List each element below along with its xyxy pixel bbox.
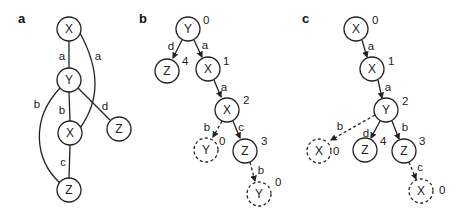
svg-text:Z: Z xyxy=(115,122,122,136)
edge-y0-x1 xyxy=(194,40,202,57)
svg-text:Z: Z xyxy=(65,183,72,197)
node-x-dashed-2: X xyxy=(409,179,433,203)
svg-text:X: X xyxy=(352,22,360,36)
edge-label: b xyxy=(258,164,264,176)
edge-label: b xyxy=(204,121,210,133)
node-y: Y xyxy=(57,68,81,92)
edge-y2-z3 xyxy=(392,121,399,139)
node-index: 1 xyxy=(388,55,394,67)
node-index: 3 xyxy=(419,135,425,147)
edge-y2-z4 xyxy=(371,121,380,138)
svg-text:Z: Z xyxy=(163,64,170,78)
svg-text:Z: Z xyxy=(241,144,248,158)
edge-x2-zb xyxy=(69,145,70,178)
edge-label: a xyxy=(95,50,102,62)
svg-text:Z: Z xyxy=(361,143,368,157)
node-index: 4 xyxy=(182,55,189,67)
node-z-right: Z xyxy=(107,117,131,141)
panel-b-label: b xyxy=(139,11,147,26)
edge-label: b xyxy=(34,98,40,110)
edge-x1-y2 xyxy=(378,80,382,98)
edge-x-x2 xyxy=(80,33,95,128)
node-z3: Z xyxy=(392,139,416,163)
svg-text:X: X xyxy=(315,144,323,158)
edge-label: a xyxy=(59,50,66,62)
panel-a-label: a xyxy=(18,11,26,26)
edge-y-zb xyxy=(39,88,60,183)
node-x1: X xyxy=(196,57,220,81)
edge-label: a xyxy=(385,81,392,93)
edge-x0-x1 xyxy=(362,40,367,57)
node-z4: Z xyxy=(353,138,377,162)
edge-label: b xyxy=(59,104,65,116)
svg-text:X: X xyxy=(65,22,73,36)
edge-label: a xyxy=(202,39,209,51)
node-index: 2 xyxy=(402,95,408,107)
node-index: 3 xyxy=(261,135,267,147)
node-x-dashed-1: X xyxy=(307,139,331,163)
node-index: 2 xyxy=(243,94,249,106)
node-x0: X xyxy=(344,17,368,41)
diagram-canvas: a a a b b d c X Y X Z xyxy=(0,0,462,217)
svg-text:Z: Z xyxy=(400,144,407,158)
edge-label: a xyxy=(368,40,375,52)
edge-y-x2 xyxy=(69,92,70,121)
panel-c: c a a b d b c X 0 X 1 Y 2 xyxy=(302,11,445,204)
node-z-bottom: Z xyxy=(57,178,81,202)
svg-text:Y: Y xyxy=(382,103,390,117)
edge-label: c xyxy=(417,161,423,173)
edge-y0-z4 xyxy=(173,40,182,58)
node-index: 4 xyxy=(380,135,387,147)
node-index: 0 xyxy=(372,14,378,26)
panel-b: b d a a b c b Y 0 Z 4 X 1 xyxy=(139,11,281,207)
node-x: X xyxy=(57,17,81,41)
edge-label: d xyxy=(168,40,174,52)
edge-label: b xyxy=(337,120,343,132)
node-x2: X xyxy=(215,98,239,122)
node-y2: Y xyxy=(374,98,398,122)
node-index: 1 xyxy=(223,55,229,67)
svg-text:X: X xyxy=(368,62,376,76)
svg-text:X: X xyxy=(66,126,74,140)
edge-label: a xyxy=(221,81,228,93)
node-x2: X xyxy=(58,121,82,145)
svg-text:X: X xyxy=(417,184,425,198)
node-y-dashed-2: Y xyxy=(247,182,271,206)
edge-label: b xyxy=(402,121,408,133)
panel-a: a a a b b d c X Y X Z xyxy=(18,11,131,203)
node-index: 0 xyxy=(333,145,339,157)
edge-label: d xyxy=(363,127,369,139)
node-index: 0 xyxy=(203,14,209,26)
edge-label: d xyxy=(102,100,108,112)
node-y-dashed-1: Y xyxy=(194,138,218,162)
node-index: 0 xyxy=(275,176,281,188)
svg-text:X: X xyxy=(223,103,231,117)
svg-text:X: X xyxy=(204,62,212,76)
edge-label: c xyxy=(238,121,244,133)
node-index: 0 xyxy=(439,184,445,196)
svg-text:Y: Y xyxy=(255,187,263,201)
edge-label: c xyxy=(60,156,66,168)
svg-text:Y: Y xyxy=(184,22,192,36)
node-z4: Z xyxy=(155,59,179,83)
node-index: 0 xyxy=(219,135,225,147)
edge-z3-yd2 xyxy=(250,162,255,181)
svg-text:Y: Y xyxy=(202,143,210,157)
node-x1: X xyxy=(360,57,384,81)
svg-text:Y: Y xyxy=(65,73,73,87)
node-z3: Z xyxy=(233,139,257,163)
edge-z3-xd2 xyxy=(409,162,416,179)
node-y0: Y xyxy=(176,17,200,41)
panel-c-label: c xyxy=(302,11,309,26)
